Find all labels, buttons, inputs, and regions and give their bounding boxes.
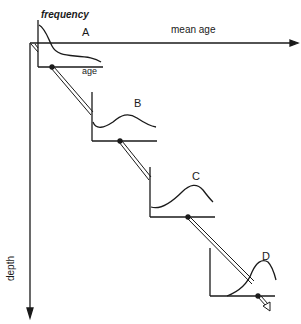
depth-label: depth [5,256,16,281]
depth-arrowhead [27,308,33,318]
panel-d-label: D [262,250,270,262]
mean-age-label: mean age [171,24,215,35]
panel-a-label: A [82,26,89,38]
panel-b-label: B [134,97,141,109]
panel-c-label: C [192,170,200,182]
diagram-canvas [0,0,301,324]
frequency-label: frequency [41,9,89,20]
panel-c-histogram [150,167,215,219]
panel-a-histogram [38,20,103,69]
panel-b-histogram [92,92,157,143]
age-label: age [82,66,97,76]
mean-age-arrowhead [290,40,298,46]
